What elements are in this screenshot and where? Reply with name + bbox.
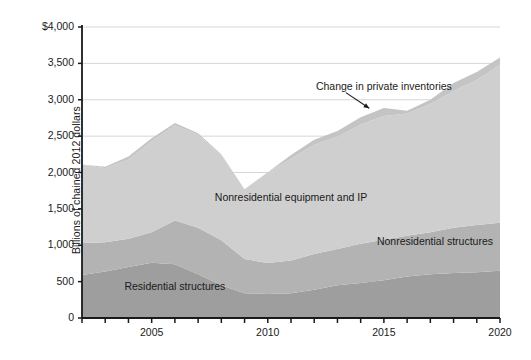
y-axis-tick-label: 3,500 xyxy=(48,56,74,68)
y-axis-tick-label: 2,000 xyxy=(48,166,74,178)
chart-plot-area xyxy=(0,0,531,360)
y-axis-tick-label: 1,000 xyxy=(48,238,74,250)
x-axis-tick-label: 2005 xyxy=(132,326,172,338)
y-axis-tick-label: 2,500 xyxy=(48,129,74,141)
y-axis-tick-label: $4,000 xyxy=(42,20,74,32)
x-axis-tick-label: 2010 xyxy=(248,326,288,338)
annotation-change-in-private-inventories: Change in private inventories xyxy=(316,80,452,92)
annotation-arrow-head xyxy=(363,103,369,108)
y-axis-tick-label: 1,500 xyxy=(48,202,74,214)
y-axis-tick-label: 0 xyxy=(68,311,74,323)
x-axis-tick-label: 2015 xyxy=(364,326,404,338)
annotation-residential-structures: Residential structures xyxy=(124,280,225,292)
annotation-nonresidential-structures: Nonresidential structures xyxy=(377,235,493,247)
x-axis-tick-label: 2020 xyxy=(480,326,520,338)
area-chart: Billions of chained 2012 dollars $4,0003… xyxy=(0,0,531,360)
y-axis-tick-label: 500 xyxy=(56,275,74,287)
y-axis-tick-label: 3,000 xyxy=(48,93,74,105)
annotation-nonresidential-equipment-and-ip: Nonresidential equipment and IP xyxy=(215,191,367,203)
